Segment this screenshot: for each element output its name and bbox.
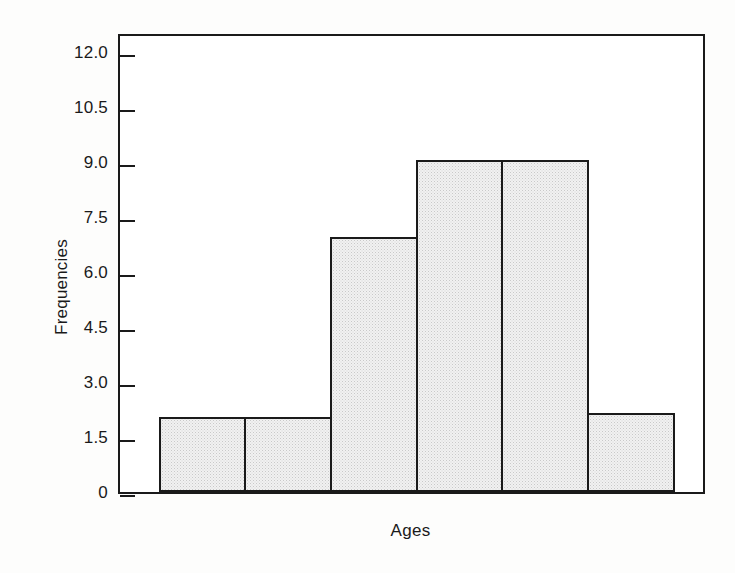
y-axis-tick-label: 9.0 [40, 153, 108, 173]
y-axis-tick-label: 1.5 [40, 428, 108, 448]
x-axis-label: Ages [0, 521, 735, 541]
y-axis-tick [120, 495, 135, 497]
y-axis-tick-label: 4.5 [40, 318, 108, 338]
bar [244, 417, 332, 492]
bar [416, 160, 504, 492]
x-axis-label-text: Ages [305, 521, 431, 540]
bars-container [120, 36, 703, 492]
y-axis-tick-label: 10.5 [40, 98, 108, 118]
plot-area [118, 34, 705, 494]
bar [330, 237, 418, 492]
bar [159, 417, 247, 492]
y-axis-tick-label: 3.0 [40, 373, 108, 393]
y-axis-tick-label: 6.0 [40, 263, 108, 283]
y-axis-tick-label: 12.0 [40, 43, 108, 63]
bar [587, 413, 675, 492]
y-axis-tick-label: 7.5 [40, 208, 108, 228]
y-axis-tick-label: 0 [40, 483, 108, 503]
bar [501, 160, 589, 492]
chart-figure: Frequencies 01.53.04.56.07.59.010.512.0 … [0, 0, 735, 573]
